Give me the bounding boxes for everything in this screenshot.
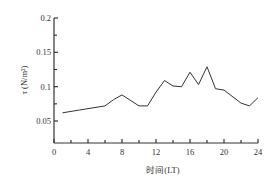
tick-labels: 0.050.10.150.204812162024 bbox=[36, 13, 263, 157]
x-axis-title: 时间(LT) bbox=[146, 165, 179, 175]
x-tick-label: 12 bbox=[152, 147, 161, 157]
y-tick-label: 0.1 bbox=[40, 82, 51, 92]
wind-stress-chart: 0.050.10.150.204812162024 时间(LT) τ (N/m²… bbox=[0, 0, 279, 186]
x-tick-label: 4 bbox=[86, 147, 91, 157]
y-tick-label: 0.15 bbox=[36, 47, 51, 57]
tick-marks bbox=[54, 18, 258, 143]
data-line bbox=[63, 67, 259, 113]
y-tick-label: 0.2 bbox=[40, 13, 51, 23]
x-tick-label: 24 bbox=[254, 147, 263, 157]
chart-canvas: 0.050.10.150.204812162024 时间(LT) τ (N/m²… bbox=[0, 0, 279, 186]
x-tick-label: 20 bbox=[220, 147, 229, 157]
axes bbox=[54, 18, 258, 143]
x-tick-label: 8 bbox=[120, 147, 124, 157]
x-tick-label: 0 bbox=[52, 147, 56, 157]
y-tick-label: 0.05 bbox=[36, 116, 51, 126]
x-tick-label: 16 bbox=[186, 147, 195, 157]
y-axis-title: τ (N/m²) bbox=[19, 65, 29, 94]
